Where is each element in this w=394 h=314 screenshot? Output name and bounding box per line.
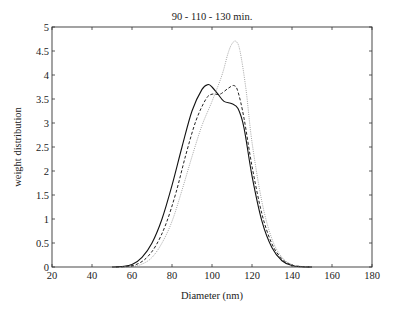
series-line-solid — [112, 85, 312, 267]
x-tick-label: 180 — [364, 270, 380, 281]
series-line-dotted — [122, 41, 312, 267]
y-tick-label: 2 — [44, 166, 49, 177]
y-tick-label: 5 — [44, 22, 49, 33]
y-tick-label: 3.5 — [36, 94, 49, 105]
plot-area — [112, 41, 312, 267]
y-tick-label: 3 — [44, 118, 49, 129]
y-tick-label: 0.5 — [36, 238, 49, 249]
y-tick-label: 1 — [44, 214, 49, 225]
x-axis-ticks: 20406080100120140160180 — [47, 27, 380, 281]
y-axis-label: weight distribution — [12, 106, 23, 186]
x-tick-label: 60 — [127, 270, 138, 281]
chart-title: 90 - 110 - 130 min. — [172, 11, 253, 22]
series-line-dashed — [116, 85, 312, 267]
x-tick-label: 40 — [87, 270, 98, 281]
y-tick-label: 1.5 — [36, 190, 49, 201]
x-tick-label: 100 — [204, 270, 220, 281]
chart: 90 - 110 - 130 min. 20406080100120140160… — [0, 0, 394, 314]
y-tick-label: 4 — [44, 70, 50, 81]
plot-frame — [52, 27, 372, 267]
y-axis-ticks: 00.511.522.533.544.55 — [36, 22, 372, 273]
y-tick-label: 4.5 — [36, 46, 49, 57]
x-tick-label: 80 — [167, 270, 178, 281]
y-tick-label: 0 — [44, 262, 49, 273]
x-tick-label: 120 — [244, 270, 260, 281]
x-tick-label: 160 — [324, 270, 340, 281]
y-tick-label: 2.5 — [36, 142, 49, 153]
x-axis-label: Diameter (nm) — [181, 290, 244, 302]
x-tick-label: 140 — [284, 270, 300, 281]
